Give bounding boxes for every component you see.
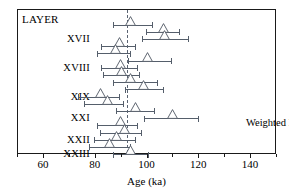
error-bar-cap-right (198, 116, 199, 122)
error-bar-cap-right (123, 101, 124, 107)
layer-label-XVII: XVII (32, 34, 90, 45)
error-bar-cap-right (135, 44, 136, 50)
x-ticklabel-100: 100 (138, 159, 155, 170)
error-bar-cap-left (146, 29, 147, 35)
error-bar-cap-left (142, 36, 143, 42)
figure-container: LAYERXVIIXVIIIXIXXXIXXIIXXIIIWeighted Me… (0, 0, 289, 190)
error-bar-cap-right (119, 94, 120, 100)
error-bar-cap-right (130, 51, 131, 57)
error-bar-cap-right (154, 108, 155, 114)
error-bar-cap-left (113, 22, 114, 28)
error-bar-cap-left (116, 108, 117, 114)
error-bar-cap-left (94, 137, 95, 143)
x-ticklabel-140: 140 (242, 159, 259, 170)
error-bar-cap-left (97, 123, 98, 129)
x-axis-title: Age (ka) (17, 175, 276, 187)
error-bar-cap-right (137, 123, 138, 129)
error-bar-cap-right (137, 65, 138, 71)
triangle-up-marker (110, 44, 121, 54)
error-bar-cap-left (97, 51, 98, 57)
weighted-mean-annotation: Weighted Mean: 92 ± 5 ka (246, 117, 289, 128)
triangle-up-marker (142, 52, 153, 62)
triangle-up-marker (159, 30, 170, 40)
triangle-up-marker (138, 80, 149, 90)
plot-area: LAYERXVIIXVIIIXIXXXIXXIIXXIIIWeighted Me… (18, 10, 275, 153)
error-bar-cap-right (139, 72, 140, 78)
error-bar-cap-right (135, 137, 136, 143)
x-tick-minor (172, 154, 173, 157)
error-bar-cap-right (163, 87, 164, 93)
triangle-up-marker (125, 16, 136, 26)
error-bar-cap-left (100, 130, 101, 136)
x-tick-minor (69, 154, 70, 157)
plot-frame: LAYERXVIIXVIIIXIXXXIXXIIXXIIIWeighted Me… (17, 9, 276, 154)
error-bar-cap-right (179, 29, 180, 35)
error-bar-cap-left (101, 44, 102, 50)
error-bar-cap-right (152, 22, 153, 28)
error-bar-cap-left (101, 65, 102, 71)
error-bar-cap-left (144, 116, 145, 122)
error-bar-cap-right (171, 58, 172, 64)
error-bar-cap-left (89, 144, 90, 150)
error-bar-cap-left (125, 87, 126, 93)
triangle-up-marker (167, 109, 178, 119)
error-bar-cap-right (188, 36, 189, 42)
error-bar-cap-left (103, 72, 104, 78)
x-tick-minor (17, 154, 18, 157)
error-bar-cap-left (78, 94, 79, 100)
layer-label-XXII: XXII (32, 135, 90, 146)
x-ticklabel-60: 60 (37, 159, 48, 170)
triangle-up-marker (102, 95, 113, 105)
triangle-up-marker (104, 138, 115, 148)
layer-axis-title: LAYER (22, 14, 59, 25)
x-tick-minor (276, 154, 277, 157)
x-ticklabel-80: 80 (89, 159, 100, 170)
triangle-up-marker (125, 73, 136, 83)
layer-label-XXI: XXI (32, 113, 90, 124)
error-bar-cap-left (84, 101, 85, 107)
error-bar-cap-left (113, 80, 114, 86)
triangle-up-marker (130, 102, 141, 112)
x-axis: Age (ka) 6080100120140 (17, 154, 276, 190)
x-tick-minor (121, 154, 122, 157)
x-tick-minor (224, 154, 225, 157)
error-bar-cap-right (157, 80, 158, 86)
layer-label-XVIII: XVIII (32, 63, 90, 74)
error-bar-cap-right (141, 130, 142, 136)
error-bar-cap-left (128, 58, 129, 64)
x-ticklabel-120: 120 (190, 159, 207, 170)
